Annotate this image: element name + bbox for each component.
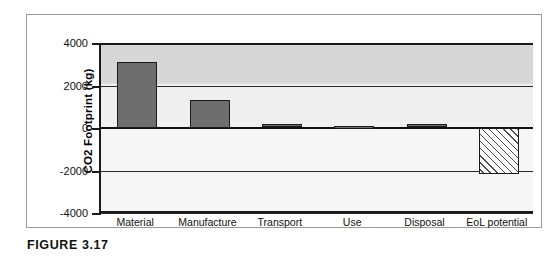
x-axis-label-manufacture: Manufacture (178, 216, 236, 228)
x-axis-label-transport: Transport (258, 216, 303, 228)
y-tick--2000 (92, 171, 101, 173)
y-tick--4000 (92, 213, 101, 215)
x-axis-label-group: MaterialManufactureTransportUseDisposalE… (99, 216, 533, 234)
bar-manufacture (190, 100, 230, 128)
y-tick-label-4000: 4000 (64, 37, 88, 49)
y-tick-0 (92, 128, 101, 130)
y-tick-label--4000: -4000 (60, 207, 88, 219)
x-axis-label-use: Use (343, 216, 362, 228)
x-axis-label-material: Material (116, 216, 153, 228)
gridline--4000 (101, 213, 533, 214)
bar-disposal (407, 124, 447, 127)
bar-eol-potential (479, 128, 519, 174)
figure-caption: FIGURE 3.17 (27, 238, 109, 252)
y-tick-label-0: 0 (82, 122, 88, 134)
bar-use (334, 126, 374, 129)
bar-material (117, 62, 157, 128)
bar-transport (262, 124, 302, 127)
x-axis-label-eol-potential: EoL potential (466, 216, 527, 228)
y-tick-2000 (92, 86, 101, 88)
x-axis-label-disposal: Disposal (404, 216, 444, 228)
y-tick-label-2000: 2000 (64, 80, 88, 92)
y-tick-4000 (92, 43, 101, 45)
chart-plot-area: 400020000-2000-4000 (99, 43, 533, 213)
figure-page: CO2 Footprint (kg) 400020000-2000-4000 M… (0, 0, 550, 261)
bar-group (101, 43, 533, 211)
y-tick-label--2000: -2000 (60, 165, 88, 177)
figure-frame: CO2 Footprint (kg) 400020000-2000-4000 M… (26, 14, 542, 228)
